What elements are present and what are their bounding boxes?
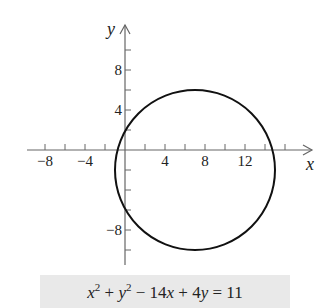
x-tick-label: −8 — [37, 153, 53, 169]
y-tick-label: −8 — [106, 222, 122, 238]
equation: x2 + y2 − 14x + 4y = 11 — [87, 281, 242, 303]
y-tick-label: 4 — [115, 102, 123, 118]
equation-box: x2 + y2 − 14x + 4y = 11 — [40, 275, 290, 308]
axes — [27, 25, 312, 265]
x-tick-label: 4 — [161, 153, 169, 169]
y-tick-label: 8 — [115, 62, 123, 78]
x-tick-label: −4 — [77, 153, 93, 169]
circle-curve — [115, 90, 275, 250]
x-axis-label: x — [305, 154, 314, 174]
x-tick-label: 12 — [238, 153, 253, 169]
circle-graph: −8−4481284−8 x y — [0, 0, 323, 275]
y-axis-label: y — [105, 19, 115, 39]
x-tick-label: 8 — [201, 153, 209, 169]
